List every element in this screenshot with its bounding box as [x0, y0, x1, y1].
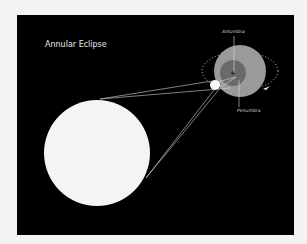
moon-disk	[210, 80, 220, 90]
ray-lower-2	[146, 87, 221, 178]
antumbra-label: Antumbra	[222, 29, 245, 34]
sun-disk	[44, 100, 150, 206]
ray-lower-1	[146, 90, 214, 178]
ray-upper-1	[100, 81, 212, 99]
penumbra-label: Penumbra	[237, 108, 261, 113]
figure-frame: Annular Eclipse Antumbra Penumbra	[0, 0, 307, 244]
eclipse-diagram	[0, 0, 307, 244]
orbit-arrow-icon	[263, 86, 270, 90]
diagram-title: Annular Eclipse	[45, 40, 107, 49]
